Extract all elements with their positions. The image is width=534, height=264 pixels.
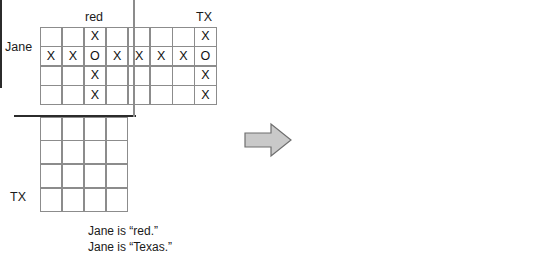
grid-cell: X [194,66,217,86]
figure-canvas: red TX Jane TX XXXXOXXXXOXXXX Jane is “r… [0,0,534,264]
grid-cell: O [84,46,107,66]
row-label-jane-left: Jane [5,40,32,54]
column-label-red-left: red [85,10,103,24]
node-marker-x: X [179,49,187,62]
node-marker-x: X [91,69,99,82]
grid-cell [40,27,63,47]
grid-cell [106,66,129,86]
grid-cell [106,140,129,164]
grid-cell [106,117,129,141]
grid-cell [62,117,85,141]
grid-cell [40,164,63,188]
grid-cell [172,27,195,47]
right-arrow-icon [243,122,293,158]
boundary-line-left [0,0,2,88]
grid-cell [40,117,63,141]
grid-cell: X [194,85,217,105]
grid-cell: X [150,46,173,66]
node-marker-x: X [157,49,165,62]
grid-cell [84,188,107,212]
grid-cell [150,66,173,86]
grid-cell [62,27,85,47]
grid-cell [128,66,151,86]
row-label-tx-left: TX [10,190,26,204]
grid-cell [84,117,107,141]
diagram-before-inference: red TX Jane TX XXXXOXXXXOXXXX Jane is “r… [0,0,246,264]
grid-cell [150,27,173,47]
node-marker-x: X [47,49,55,62]
vertical-axis-rule-left [133,0,135,117]
grid-cell [128,27,151,47]
grid-cell [62,66,85,86]
caption-line-2-left: Jane is “Texas.” [88,240,172,254]
grid-cell [172,66,195,86]
column-label-tx-left: TX [196,10,212,24]
grid-cell: X [172,46,195,66]
grid-cell [106,164,129,188]
caption-line-1-left: Jane is “red.” [88,224,158,238]
grid-cell [40,188,63,212]
grid-cell [40,66,63,86]
node-marker-x: X [69,49,77,62]
diagram-after-inference: red TX Jane TX XXXXOXXXXOXXXX XXXXXOX “T… [300,0,534,264]
grid-cell: X [194,27,217,47]
grid-cell: X [84,27,107,47]
grid-cell [150,85,173,105]
grid-cell [40,140,63,164]
grid-cell: X [84,85,107,105]
node-marker-x: X [201,88,209,101]
node-marker-x: X [91,88,99,101]
grid-cell [62,188,85,212]
grid-cell [62,164,85,188]
node-marker-x: X [91,30,99,43]
node-marker-x: X [135,49,143,62]
grid-cell: X [106,46,129,66]
grid-cell [40,85,63,105]
horizontal-axis-rule-left [14,115,136,117]
grid-cell [62,85,85,105]
grid-cell [84,140,107,164]
grid-cell [84,164,107,188]
grid-cell [106,188,129,212]
grid-cell [128,85,151,105]
node-marker-o: O [90,49,100,62]
node-marker-x: X [113,49,121,62]
grid-cell: X [62,46,85,66]
grid-cell: O [194,46,217,66]
node-marker-o: O [201,49,211,62]
lower-grid-left [40,117,128,212]
node-marker-x: X [201,30,209,43]
upper-grid-left: XXXXOXXXXOXXXX [40,27,217,105]
grid-cell [62,140,85,164]
grid-cell: X [40,46,63,66]
grid-cell: X [84,66,107,86]
grid-cell [172,85,195,105]
grid-cell [106,27,129,47]
grid-cell [106,85,129,105]
node-marker-x: X [201,69,209,82]
grid-cell: X [128,46,151,66]
